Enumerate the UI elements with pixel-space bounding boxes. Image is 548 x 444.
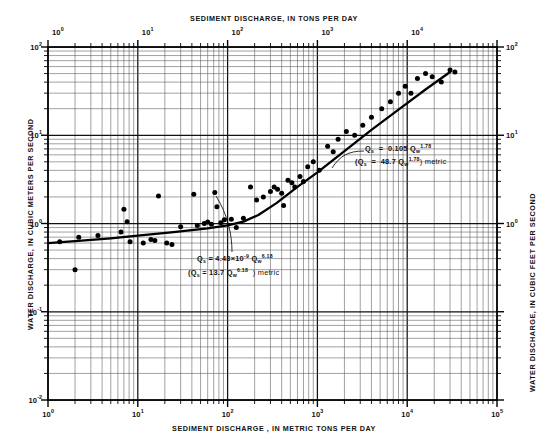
data-point (279, 191, 284, 196)
xtick-bottom-0: 100 (42, 408, 54, 419)
lower-equation-line2: (Qs = 13.7 Qw6.18 ) metric (188, 267, 279, 278)
annotation-leader-lines (216, 151, 364, 252)
data-point (281, 203, 286, 208)
data-point (248, 184, 253, 189)
data-point (57, 239, 62, 244)
data-point (388, 99, 393, 104)
data-point (268, 189, 273, 194)
data-point (141, 241, 146, 246)
data-point (331, 149, 336, 154)
data-point (125, 219, 130, 224)
upper-equation-line2: (Qs = 48.7 Qw1.78) metric (355, 156, 446, 167)
data-point (241, 216, 246, 221)
data-point (325, 144, 330, 149)
xtick-top-4: 104 (411, 26, 423, 37)
data-point (254, 197, 259, 202)
data-point (121, 207, 126, 212)
data-point (317, 168, 322, 173)
data-point (403, 84, 408, 89)
xtick-bottom-2: 102 (222, 408, 234, 419)
bottom-axis-title: SEDIMENT DISCHARGE , IN METRIC TONS PER … (0, 424, 548, 433)
data-point (261, 194, 266, 199)
ytick-left-1: 10-1 (28, 306, 42, 317)
data-point (289, 180, 294, 185)
data-points (57, 67, 457, 272)
minor-gridlines (48, 47, 497, 400)
xtick-bottom-1: 101 (132, 408, 144, 419)
sediment-rating-curve-figure: SEDIMENT DISCHARGE, IN TONS PER DAY SEDI… (0, 0, 548, 444)
upper-equation-line1: Qs = 0.105 Qw1.78 (365, 143, 431, 154)
data-point (430, 74, 435, 79)
right-axis-title: WATER DISCHARGE, IN CUBIC FEET PER SECON… (528, 193, 537, 392)
ytick-left-4: 102 (30, 41, 42, 52)
data-point (439, 80, 444, 85)
data-point (156, 193, 161, 198)
data-point (191, 192, 196, 197)
ytick-left-0: 10-2 (28, 394, 42, 405)
ytick-left-3: 101 (30, 129, 42, 140)
plot-canvas (0, 0, 548, 444)
data-point (73, 267, 78, 272)
data-point (448, 67, 453, 72)
xtick-bottom-3: 103 (312, 408, 324, 419)
ytick-right-2: 102 (506, 41, 518, 52)
data-point (379, 106, 384, 111)
top-axis-title: SEDIMENT DISCHARGE, IN TONS PER DAY (0, 14, 548, 23)
data-point (209, 222, 214, 227)
data-point (275, 187, 280, 192)
data-point (229, 217, 234, 222)
xtick-top-0: 100 (52, 26, 64, 37)
data-point (169, 242, 174, 247)
xtick-bottom-4: 104 (401, 408, 413, 419)
data-point (164, 241, 169, 246)
data-point (214, 204, 219, 209)
data-point (360, 123, 365, 128)
data-point (396, 91, 401, 96)
data-point (344, 129, 349, 134)
data-point (297, 174, 302, 179)
data-point (352, 133, 357, 138)
data-point (212, 190, 217, 195)
data-point (408, 91, 413, 96)
data-point (311, 159, 316, 164)
ytick-left-2: 100 (30, 218, 42, 229)
data-point (234, 225, 239, 230)
data-point (301, 179, 306, 184)
data-point (76, 235, 81, 240)
data-point (336, 137, 341, 142)
data-point (195, 223, 200, 228)
data-point (423, 71, 428, 76)
xtick-top-1: 101 (142, 26, 154, 37)
xtick-top-3: 103 (321, 26, 333, 37)
data-point (305, 164, 310, 169)
data-point (369, 115, 374, 120)
data-point (152, 238, 157, 243)
xtick-bottom-5: 105 (491, 408, 503, 419)
data-point (452, 70, 457, 75)
xtick-top-2: 102 (232, 26, 244, 37)
data-point (95, 233, 100, 238)
data-point (119, 230, 124, 235)
lower-equation-line1: Qs = 4.43×10-9 Qw6.18 (197, 253, 273, 264)
data-point (415, 76, 420, 81)
ytick-right-1: 101 (506, 129, 518, 140)
data-point (128, 239, 133, 244)
data-point (222, 217, 227, 222)
data-point (292, 184, 297, 189)
ytick-right-0: 100 (506, 218, 518, 229)
data-point (178, 224, 183, 229)
